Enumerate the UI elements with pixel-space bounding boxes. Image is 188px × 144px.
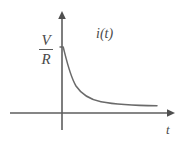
exponential-decay-figure: V R i(t) t <box>0 0 188 144</box>
x-axis-label: t <box>166 123 170 136</box>
y-axis-arrowhead <box>58 11 66 19</box>
y-axis-value-denominator: R <box>34 52 58 67</box>
x-axis-arrowhead <box>167 109 175 117</box>
curve-label: i(t) <box>96 27 113 41</box>
current-decay-curve <box>63 47 157 106</box>
y-axis-value-label: V R <box>34 33 58 67</box>
plot-canvas <box>0 0 188 144</box>
fraction-bar <box>39 49 53 50</box>
y-axis-value-numerator: V <box>34 33 58 48</box>
